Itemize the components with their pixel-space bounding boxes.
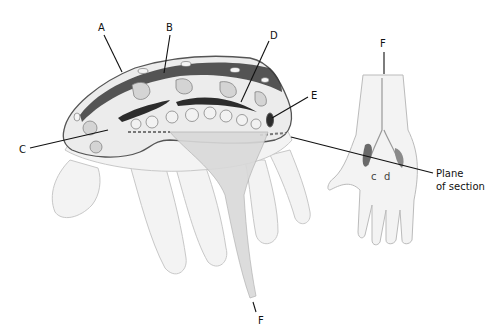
palm-outline (328, 75, 417, 245)
label-B: B (166, 22, 173, 34)
label-plane-line2: of section (436, 180, 485, 193)
label-F-bottom: F (258, 315, 264, 327)
palm-glyph-2: d (384, 171, 390, 182)
palm-view: c d (328, 75, 417, 245)
palm-glyph-1: c (371, 171, 377, 182)
label-E: E (311, 90, 317, 102)
label-A: A (98, 22, 105, 34)
label-D: D (270, 30, 278, 42)
label-F-top: F (380, 38, 386, 50)
label-C: C (19, 144, 26, 156)
hand-anatomy-diagram: c d (0, 0, 501, 336)
structure-E (267, 113, 274, 127)
label-plane-line1: Plane (436, 167, 463, 180)
